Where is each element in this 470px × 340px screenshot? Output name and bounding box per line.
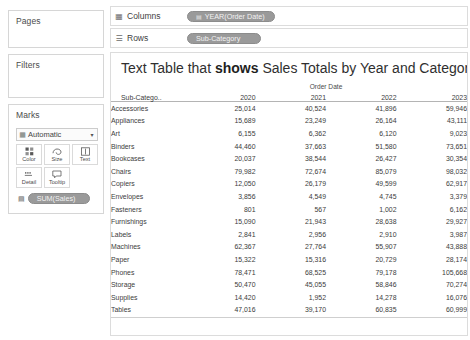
table-row[interactable]: Fasteners8015671,0026,162 (111, 203, 467, 216)
pages-card-title: Pages (9, 11, 103, 26)
table-row[interactable]: Chairs79,98272,67485,07998,032 (111, 165, 467, 178)
table-cell-value: 29,927 (397, 215, 468, 228)
columns-shelf[interactable]: ▦ Columns ▤ YEAR(Order Date) (110, 6, 468, 26)
rows-icon: ☰ (111, 34, 127, 43)
date-icon: ▤ (196, 13, 202, 20)
columns-pill-year-order-date[interactable]: ▤ YEAR(Order Date) (187, 11, 275, 22)
marks-buttons-grid: Color Size Text (16, 144, 98, 190)
table-row[interactable]: Labels2,8412,9562,9103,987 (111, 228, 467, 241)
table-cell-value: 26,164 (326, 115, 397, 128)
table-cell-value: 2,910 (326, 228, 397, 241)
marks-card[interactable]: Marks ▦ Automatic ▾ Color (8, 104, 104, 214)
table-row[interactable]: Binders44,46037,66351,58073,651 (111, 140, 467, 153)
column-header-cell: 2021 (256, 90, 327, 102)
table-row[interactable]: Supplies14,4201,95214,27816,076 (111, 291, 467, 304)
marks-size-button[interactable]: Size (44, 144, 70, 165)
table-cell-value: 58,846 (326, 278, 397, 291)
marks-color-button[interactable]: Color (16, 144, 42, 165)
table-cell-value: 43,111 (397, 115, 468, 128)
table-cell-value: 28,174 (397, 253, 468, 266)
table-cell-value: 15,090 (185, 215, 256, 228)
table-cell-value: 78,471 (185, 266, 256, 279)
row-label: Furnishings (111, 215, 185, 228)
table-cell-value: 44,460 (185, 140, 256, 153)
table-cell-value: 15,322 (185, 253, 256, 266)
table-cell-value: 37,663 (256, 140, 327, 153)
filters-card[interactable]: Filters (8, 54, 104, 98)
table-row[interactable]: Accessories25,01440,52441,89659,946 (111, 102, 467, 115)
table-row[interactable]: Storage50,47045,05558,84670,274 (111, 278, 467, 291)
table-cell-value: 45,055 (256, 278, 327, 291)
table-cell-value: 72,674 (256, 165, 327, 178)
table-cell-value: 28,638 (326, 215, 397, 228)
row-label: Binders (111, 140, 185, 153)
table-cell-value: 30,354 (397, 152, 468, 165)
row-label: Envelopes (111, 190, 185, 203)
table-cell-value: 62,917 (397, 178, 468, 191)
table-cell-value: 79,178 (326, 266, 397, 279)
table-cell-value: 98,032 (397, 165, 468, 178)
size-icon (52, 146, 62, 156)
title-emphasis: shows (215, 60, 259, 76)
chevron-down-icon: ▾ (87, 131, 97, 138)
table-body: Accessories25,01440,52441,89659,946Appli… (111, 102, 467, 317)
row-label: Bookcases (111, 152, 185, 165)
table-cell-value: 26,179 (256, 178, 327, 191)
table-row[interactable]: Phones78,47168,52579,178105,668 (111, 266, 467, 279)
marks-detail-label: Detail (22, 179, 36, 186)
left-rail: Pages Filters Marks ▦ Automatic ▾ Color (0, 0, 104, 340)
row-label: Machines (111, 241, 185, 254)
table-cell-value: 9,023 (397, 127, 468, 140)
table-cell-value: 59,946 (397, 102, 468, 115)
table-row[interactable]: Bookcases20,03738,54426,42730,354 (111, 152, 467, 165)
row-label: Tables (111, 304, 185, 317)
marks-tooltip-label: Tooltip (49, 179, 65, 186)
table-cell-value: 47,016 (185, 304, 256, 317)
rows-shelf[interactable]: ☰ Rows Sub-Category (110, 28, 468, 48)
table-row[interactable]: Appliances15,68923,24926,16443,111 (111, 115, 467, 128)
table-cell-value: 801 (185, 203, 256, 216)
marks-sum-sales-pill[interactable]: SUM(Sales) (28, 193, 90, 204)
marks-type-icon: ▦ (17, 131, 28, 138)
table-row[interactable]: Art6,1556,3626,1209,023 (111, 127, 467, 140)
table-cell-value: 50,470 (185, 278, 256, 291)
table-cell-value: 68,525 (256, 266, 327, 279)
table-cell-value: 38,544 (256, 152, 327, 165)
table-row[interactable]: Machines62,36727,76455,90743,888 (111, 241, 467, 254)
abc-icon: ▤ (18, 195, 25, 202)
table-cell-value: 6,155 (185, 127, 256, 140)
marks-color-label: Color (22, 156, 35, 163)
table-row[interactable]: Envelopes3,8564,5494,7453,379 (111, 190, 467, 203)
row-label: Art (111, 127, 185, 140)
row-label: Chairs (111, 165, 185, 178)
table-cell-value: 15,316 (256, 253, 327, 266)
table-cell-value: 43,888 (397, 241, 468, 254)
color-palette-icon (25, 146, 34, 156)
marks-type-dropdown[interactable]: ▦ Automatic ▾ (16, 128, 98, 141)
marks-sum-sales-row: ▤ SUM(Sales) (18, 193, 90, 204)
marks-text-button[interactable]: Text (72, 144, 98, 165)
table-header-row: Sub-Catego..2020202120222023 (111, 90, 467, 102)
group-header-spacer (111, 81, 185, 90)
title-prefix: Text Table that (121, 60, 215, 76)
table-cell-value: 20,729 (326, 253, 397, 266)
table-cell-value: 23,249 (256, 115, 327, 128)
rows-shelf-label: Rows (127, 33, 185, 43)
pages-card[interactable]: Pages (8, 10, 104, 48)
table-row[interactable]: Furnishings15,09021,94328,63829,927 (111, 215, 467, 228)
table-row[interactable]: Tables47,01639,17060,83560,999 (111, 304, 467, 317)
marks-detail-button[interactable]: Detail (16, 167, 42, 188)
marks-tooltip-button[interactable]: Tooltip (44, 167, 70, 188)
table-row[interactable]: Copiers12,05026,17949,59962,917 (111, 178, 467, 191)
marks-sum-sales-label: SUM(Sales) (37, 194, 76, 203)
table-cell-value: 14,278 (326, 291, 397, 304)
row-label: Phones (111, 266, 185, 279)
rows-pill-sub-category[interactable]: Sub-Category (187, 33, 261, 44)
tableau-worksheet: Pages Filters Marks ▦ Automatic ▾ Color (0, 0, 470, 340)
table-cell-value: 2,956 (256, 228, 327, 241)
filters-card-title: Filters (9, 55, 103, 70)
table-row[interactable]: Paper15,32215,31620,72928,174 (111, 253, 467, 266)
rows-pill-label: Sub-Category (196, 34, 240, 43)
table-cell-value: 6,162 (397, 203, 468, 216)
row-label: Copiers (111, 178, 185, 191)
